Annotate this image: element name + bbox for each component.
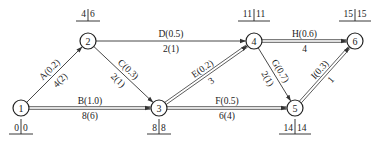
edge-label-activity: H(0.6) bbox=[292, 29, 317, 40]
earliest-time: 0 bbox=[14, 123, 19, 133]
node-times: 1515 bbox=[339, 9, 371, 21]
earliest-time: 11 bbox=[243, 9, 252, 19]
edge-2-3 bbox=[94, 46, 153, 102]
node-label: 4 bbox=[252, 36, 257, 47]
latest-time: 6 bbox=[90, 9, 95, 19]
edge-label-activity: F(0.5) bbox=[215, 96, 239, 107]
latest-time: 8 bbox=[161, 123, 166, 133]
latest-time: 0 bbox=[23, 123, 28, 133]
node-times: 1414 bbox=[279, 119, 311, 134]
edge-3-5 bbox=[167, 107, 287, 110]
edge-1-2 bbox=[27, 47, 82, 102]
latest-time: 15 bbox=[357, 9, 367, 19]
edge-label-duration: 6(4) bbox=[219, 111, 235, 122]
edge-label-duration: 2(1) bbox=[163, 44, 179, 55]
edge-label-duration: 8(6) bbox=[82, 111, 98, 122]
node-times: 00 bbox=[9, 119, 33, 134]
node-label: 1 bbox=[19, 103, 24, 114]
node-times: 1111 bbox=[238, 9, 270, 21]
node-label: 3 bbox=[157, 103, 162, 114]
earliest-time: 15 bbox=[344, 9, 354, 19]
latest-time: 14 bbox=[297, 123, 307, 133]
edge-label-duration: 4 bbox=[302, 44, 307, 54]
edge-label-duration: 1 bbox=[326, 75, 337, 85]
node-label: 5 bbox=[293, 103, 298, 114]
node-times: 46 bbox=[76, 9, 100, 21]
node-label: 2 bbox=[86, 36, 91, 47]
edge-label-activity: D(0.5) bbox=[158, 29, 183, 40]
edge-label-duration: 3 bbox=[206, 75, 216, 86]
edge-label-duration: 4(2) bbox=[51, 71, 70, 90]
earliest-time: 4 bbox=[81, 9, 86, 19]
node-6: 61515 bbox=[339, 9, 371, 49]
node-times: 88 bbox=[147, 119, 171, 134]
edge-5-6 bbox=[299, 46, 350, 102]
latest-time: 11 bbox=[256, 9, 265, 19]
node-2: 246 bbox=[76, 9, 100, 49]
earliest-time: 14 bbox=[284, 123, 294, 133]
network-diagram: A(0.2)4(2)B(1.0)8(6)C(0.3)2(1)D(0.5)2(1)… bbox=[0, 0, 377, 146]
edge-label-activity: B(1.0) bbox=[78, 96, 103, 107]
edge-1-3 bbox=[29, 107, 151, 110]
node-3: 388 bbox=[147, 100, 171, 134]
node-label: 6 bbox=[353, 36, 358, 47]
earliest-time: 8 bbox=[152, 123, 157, 133]
node-5: 51414 bbox=[279, 100, 311, 134]
node-4: 41111 bbox=[238, 9, 270, 49]
edge-4-6 bbox=[262, 40, 347, 43]
node-1: 100 bbox=[9, 100, 33, 134]
edge-label-duration: 2(1) bbox=[108, 71, 127, 90]
